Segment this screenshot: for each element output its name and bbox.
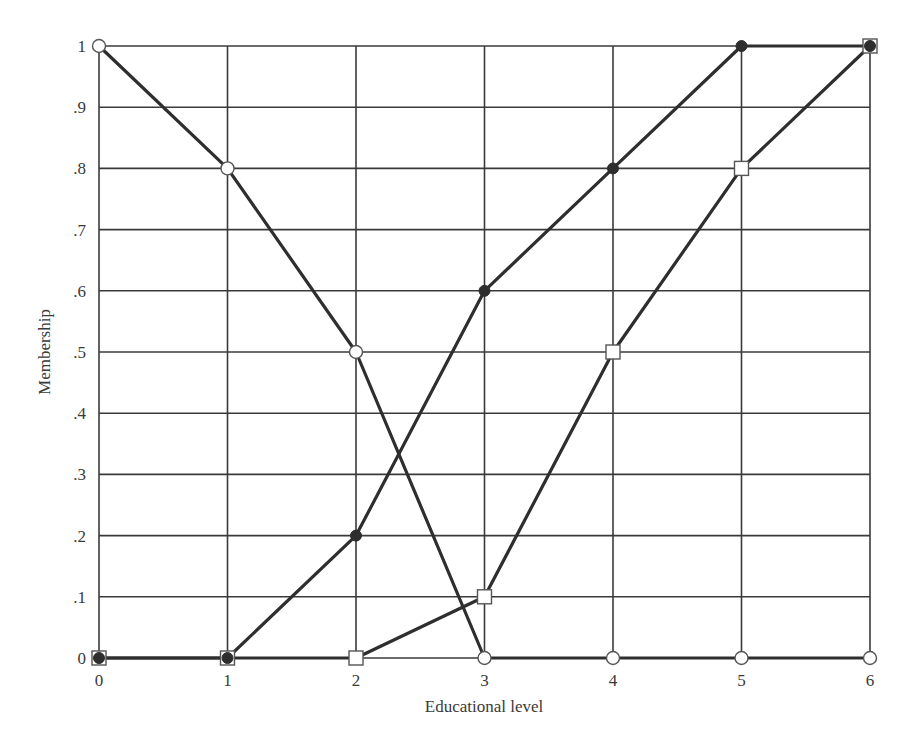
y-tick-label: .2 bbox=[73, 527, 86, 546]
open-circle-marker bbox=[350, 346, 363, 359]
grid-lines bbox=[99, 46, 870, 658]
y-tick-label: 0 bbox=[78, 649, 87, 668]
filled-circle-marker bbox=[736, 41, 747, 52]
filled-circle-marker bbox=[94, 653, 105, 664]
open-circle-marker bbox=[735, 652, 748, 665]
x-tick-label: 2 bbox=[352, 671, 361, 690]
x-tick-label: 3 bbox=[480, 671, 489, 690]
y-tick-labels: 0.1.2.3.4.5.6.7.8.91 bbox=[73, 37, 86, 668]
open-circle-marker bbox=[864, 652, 877, 665]
open-circle-marker bbox=[478, 652, 491, 665]
x-tick-label: 6 bbox=[866, 671, 875, 690]
square-marker bbox=[349, 651, 363, 665]
open-circle-marker bbox=[221, 162, 234, 175]
open-circle-marker bbox=[93, 40, 106, 53]
y-tick-label: .4 bbox=[73, 404, 86, 423]
x-tick-labels: 0123456 bbox=[95, 671, 875, 690]
x-tick-label: 0 bbox=[95, 671, 104, 690]
filled-circle-marker bbox=[608, 163, 619, 174]
square-marker bbox=[735, 161, 749, 175]
y-tick-label: .5 bbox=[73, 343, 86, 362]
y-tick-label: .8 bbox=[73, 159, 86, 178]
filled-circle-marker bbox=[479, 285, 490, 296]
y-tick-label: .9 bbox=[73, 98, 86, 117]
x-tick-label: 4 bbox=[609, 671, 618, 690]
y-tick-label: .3 bbox=[73, 465, 86, 484]
membership-chart: 0.1.2.3.4.5.6.7.8.91 0123456 Educational… bbox=[0, 0, 910, 753]
y-axis-label: Membership bbox=[35, 309, 54, 395]
filled-circle-marker bbox=[351, 530, 362, 541]
square-marker bbox=[478, 590, 492, 604]
x-axis-label: Educational level bbox=[425, 697, 544, 716]
open-circle-marker bbox=[607, 652, 620, 665]
y-tick-label: .6 bbox=[73, 282, 86, 301]
filled-circle-marker bbox=[222, 653, 233, 664]
x-tick-label: 5 bbox=[737, 671, 746, 690]
y-tick-label: .7 bbox=[73, 221, 86, 240]
filled-circle-marker bbox=[865, 41, 876, 52]
x-tick-label: 1 bbox=[223, 671, 232, 690]
y-tick-label: 1 bbox=[78, 37, 87, 56]
y-tick-label: .1 bbox=[73, 588, 86, 607]
square-marker bbox=[606, 345, 620, 359]
